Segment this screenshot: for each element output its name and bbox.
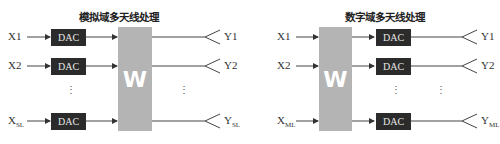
analog-input-xl: XSL (8, 114, 24, 129)
digital-dac-l: DAC (376, 113, 411, 130)
analog-dac-l: DAC (51, 113, 86, 130)
analog-input-x2: X2 (8, 59, 21, 71)
digital-output-ellipsis: ⋮ (436, 87, 440, 92)
analog-output-ellipsis: ⋮ (179, 87, 183, 92)
analog-input-x1: X1 (8, 30, 21, 42)
digital-output-y1: Y1 (481, 30, 494, 42)
digital-input-xl: XML (277, 114, 295, 129)
analog-panel-title: 模拟域多天线处理 (79, 9, 159, 24)
digital-dac-2: DAC (376, 58, 411, 75)
digital-weight-matrix: W (319, 27, 352, 131)
analog-output-yl: YSL (224, 114, 240, 129)
digital-dac-ellipsis: ⋮ (391, 87, 395, 92)
analog-output-y2: Y2 (224, 59, 237, 71)
analog-dac-ellipsis: ⋮ (66, 87, 70, 92)
analog-dac-1: DAC (51, 29, 86, 46)
digital-dac-1: DAC (376, 29, 411, 46)
digital-input-x2: X2 (277, 59, 290, 71)
digital-input-x1: X1 (277, 30, 290, 42)
analog-weight-matrix: W (118, 27, 152, 131)
digital-panel-title: 数字域多天线处理 (345, 9, 425, 24)
digital-output-y2: Y2 (481, 59, 494, 71)
analog-dac-2: DAC (51, 58, 86, 75)
analog-output-y1: Y1 (224, 30, 237, 42)
digital-output-yl: YML (481, 114, 499, 129)
